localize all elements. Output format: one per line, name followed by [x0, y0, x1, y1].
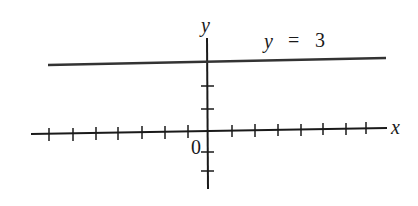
- x-axis: [31, 128, 387, 134]
- equation-label: y = 3: [262, 29, 325, 53]
- origin-label: 0: [191, 136, 201, 158]
- x-axis-label: x: [390, 116, 400, 138]
- svg-text:y: y: [262, 30, 273, 53]
- svg-text:3: 3: [315, 29, 325, 51]
- line-y-equals-3: [48, 58, 386, 65]
- svg-text:=: =: [288, 29, 299, 51]
- y-axis-label: y: [199, 14, 210, 37]
- coordinate-plane: y x 0 y = 3: [0, 0, 418, 206]
